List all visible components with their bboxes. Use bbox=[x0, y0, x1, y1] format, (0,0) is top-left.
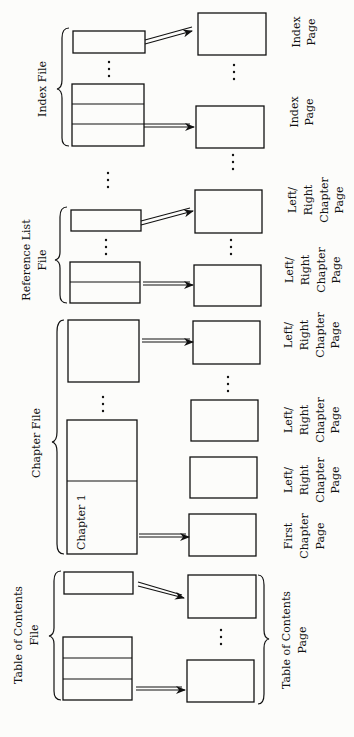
chapter-arrow-first bbox=[139, 534, 189, 537]
lr-chapter-page-label-3: Left/ Right Chapter Page bbox=[282, 312, 342, 358]
index-file-ellipsis bbox=[108, 61, 110, 77]
chapter-file-brace bbox=[52, 320, 64, 554]
svg-text:File: File bbox=[36, 249, 49, 270]
chapter-file-ellipsis bbox=[102, 396, 104, 412]
svg-text:Table of Contents: Table of Contents bbox=[280, 591, 293, 689]
svg-text:Right: Right bbox=[302, 184, 315, 215]
svg-text:Left/: Left/ bbox=[283, 257, 296, 283]
svg-text:Left/: Left/ bbox=[282, 467, 295, 493]
svg-text:Chapter: Chapter bbox=[318, 177, 331, 223]
svg-text:Index File: Index File bbox=[36, 61, 49, 117]
chapter-file-record-last bbox=[68, 320, 139, 382]
chapter-1-label: Chapter 1 bbox=[75, 494, 88, 550]
lr-chapter-page-label-4: Left/ Right Chapter Page bbox=[283, 247, 343, 293]
svg-text:Page: Page bbox=[330, 256, 343, 283]
svg-text:Chapter File: Chapter File bbox=[30, 408, 43, 478]
toc-page-box-1 bbox=[187, 660, 254, 702]
svg-text:Table of Contents: Table of Contents bbox=[12, 586, 25, 684]
svg-text:Chapter: Chapter bbox=[314, 457, 327, 503]
svg-text:Chapter: Chapter bbox=[314, 312, 327, 358]
index-page-label-1: Index Page bbox=[288, 96, 316, 128]
index-file-record-last bbox=[73, 31, 145, 53]
svg-text:Reference List: Reference List bbox=[20, 219, 33, 301]
svg-text:Left/: Left/ bbox=[282, 407, 295, 433]
files-ellipsis-1 bbox=[107, 172, 109, 188]
file-to-page-diagram: Index File Reference List File Chapter F… bbox=[0, 0, 354, 737]
index-page-box-2 bbox=[198, 13, 266, 55]
lr-chapter-page-box-2 bbox=[191, 400, 258, 441]
reflist-arrow-2 bbox=[141, 208, 193, 225]
index-arrow-1 bbox=[144, 124, 194, 127]
toc-file-label: Table of Contents File bbox=[12, 586, 41, 684]
svg-text:Page: Page bbox=[329, 466, 342, 493]
svg-text:Right: Right bbox=[299, 254, 312, 285]
svg-text:Index: Index bbox=[288, 96, 301, 128]
lr-chapter-page-box-3 bbox=[193, 321, 260, 364]
svg-text:Right: Right bbox=[298, 404, 311, 435]
lr-chapter-page-box-4 bbox=[194, 265, 261, 306]
index-page-label-2: Index Page bbox=[290, 16, 318, 48]
index-file-label: Index File bbox=[36, 61, 49, 117]
svg-text:Page: Page bbox=[296, 626, 309, 653]
first-chapter-page-label: First Chapter Page bbox=[282, 513, 327, 559]
svg-text:Page: Page bbox=[329, 406, 342, 433]
lr-chapter-page-label-1: Left/ Right Chapter Page bbox=[282, 457, 342, 503]
lr-chapter-page-label-5: Left/ Right Chapter Page bbox=[286, 177, 346, 223]
svg-text:Chapter: Chapter bbox=[314, 397, 327, 443]
chapter-file-label: Chapter File bbox=[30, 408, 43, 478]
svg-text:Left/: Left/ bbox=[286, 187, 299, 213]
reference-list-ellipsis bbox=[105, 239, 107, 255]
svg-text:Page: Page bbox=[329, 321, 342, 348]
index-file-records bbox=[72, 84, 144, 146]
toc-arrow-1 bbox=[136, 687, 185, 690]
svg-text:Chapter: Chapter bbox=[315, 247, 328, 293]
toc-pages-ellipsis bbox=[220, 629, 222, 645]
reference-list-file-label: Reference List File bbox=[20, 219, 49, 301]
reference-list-record-last bbox=[71, 210, 141, 231]
svg-text:Chapter: Chapter bbox=[298, 513, 311, 559]
lr-chapter-page-box-1 bbox=[190, 457, 257, 498]
svg-text:Page: Page bbox=[314, 522, 327, 549]
svg-text:Index: Index bbox=[290, 16, 303, 48]
toc-page-label: Table of Contents Page bbox=[280, 591, 309, 689]
lr-chapter-page-label-2: Left/ Right Chapter Page bbox=[282, 397, 342, 443]
lr-chapter-page-box-5 bbox=[195, 190, 262, 233]
svg-text:File: File bbox=[28, 624, 41, 645]
svg-text:Left/: Left/ bbox=[282, 322, 295, 348]
svg-text:Page: Page bbox=[303, 98, 316, 125]
index-page-box-1 bbox=[196, 106, 264, 148]
index-file-brace bbox=[57, 28, 69, 146]
reflist-arrow-1 bbox=[143, 282, 193, 285]
svg-text:Right: Right bbox=[298, 464, 311, 495]
index-arrow-2 bbox=[145, 27, 192, 44]
svg-text:First: First bbox=[282, 522, 295, 549]
reference-list-file-brace bbox=[55, 207, 67, 303]
chapter-pages-ellipsis bbox=[227, 376, 229, 392]
toc-file-records bbox=[63, 637, 132, 700]
chapter-arrow-last bbox=[142, 339, 193, 342]
first-chapter-page-box bbox=[189, 514, 256, 556]
toc-page-box-2 bbox=[188, 575, 256, 618]
svg-text:Page: Page bbox=[305, 18, 318, 45]
index-pages-ellipsis bbox=[233, 64, 235, 80]
toc-file-brace bbox=[49, 571, 61, 700]
index-pages-ellipsis-2 bbox=[232, 154, 234, 170]
toc-pages-brace bbox=[258, 575, 269, 704]
svg-text:Page: Page bbox=[333, 186, 346, 213]
reflist-pages-ellipsis bbox=[230, 239, 232, 255]
toc-file-record-last bbox=[64, 572, 133, 594]
svg-text:Right: Right bbox=[298, 319, 311, 350]
toc-arrow-2 bbox=[138, 582, 184, 598]
